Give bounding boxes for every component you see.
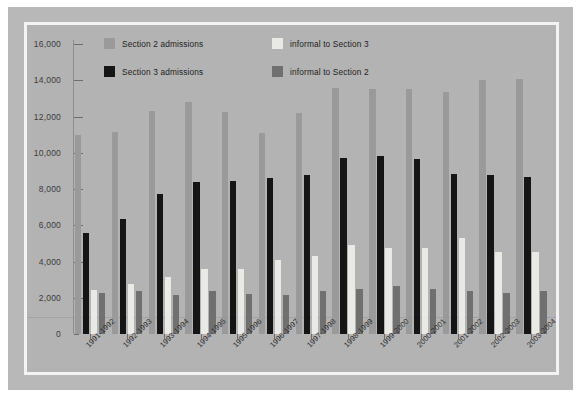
bar-informal-to-section-3 (312, 256, 318, 334)
bar-section-2-admissions (259, 133, 265, 334)
bar-section-3-admissions (377, 156, 383, 334)
bar-section-3-admissions (120, 219, 126, 334)
bar-section-3-admissions (157, 194, 163, 334)
bar-informal-to-section-3 (495, 252, 501, 334)
bar-section-2-admissions (479, 80, 485, 334)
bar-section-3-admissions (83, 233, 89, 334)
bar-section-2-admissions (112, 132, 118, 334)
bar-section-2-admissions (369, 89, 375, 334)
bar-informal-to-section-3 (532, 252, 538, 334)
legend-label-section-3-admissions: Section 3 admissions (122, 67, 203, 77)
bar-section-2-admissions (222, 112, 228, 334)
bar-informal-to-section-3 (422, 248, 428, 334)
legend-item-section-2-admissions: Section 2 admissions (104, 38, 203, 49)
bar-group (479, 0, 516, 334)
bar-section-2-admissions (406, 89, 412, 334)
bar-section-2-admissions (296, 113, 302, 334)
bar-section-3-admissions (304, 175, 310, 334)
bar-section-2-admissions (75, 135, 81, 334)
legend-swatch-section-3-admissions (104, 66, 115, 77)
bar-informal-to-section-3 (459, 238, 465, 334)
chart-legend: Section 2 admissions informal to Section… (104, 38, 394, 80)
bar-section-3-admissions (340, 158, 346, 334)
bar-section-2-admissions (185, 102, 191, 334)
bar-informal-to-section-3 (275, 260, 281, 334)
legend-label-informal-to-section-3: informal to Section 3 (290, 39, 369, 49)
bar-section-3-admissions (487, 175, 493, 335)
bar-informal-to-section-3 (165, 277, 171, 334)
legend-item-informal-to-section-2: informal to Section 2 (272, 66, 369, 77)
bar-section-3-admissions (524, 177, 530, 334)
bar-informal-to-section-3 (201, 269, 207, 334)
legend-item-section-3-admissions: Section 3 admissions (104, 66, 203, 77)
bar-informal-to-section-3 (91, 290, 97, 334)
bar-group (406, 0, 443, 334)
bar-informal-to-section-3 (128, 284, 134, 334)
legend-swatch-informal-to-section-2 (272, 66, 283, 77)
bar-group (443, 0, 480, 334)
bar-section-3-admissions (267, 178, 273, 334)
bar-informal-to-section-3 (385, 248, 391, 334)
bar-section-3-admissions (414, 159, 420, 334)
bar-section-2-admissions (149, 111, 155, 334)
chart-figure: 02,0004,0006,0008,00010,00012,00014,0001… (0, 0, 587, 417)
legend-swatch-informal-to-section-3 (272, 38, 283, 49)
legend-label-section-2-admissions: Section 2 admissions (122, 39, 203, 49)
bar-informal-to-section-3 (348, 245, 354, 334)
bar-section-2-admissions (332, 88, 338, 335)
legend-item-informal-to-section-3: informal to Section 3 (272, 38, 369, 49)
bar-group (516, 0, 553, 334)
legend-swatch-section-2-admissions (104, 38, 115, 49)
bar-section-2-admissions (443, 92, 449, 334)
bar-section-3-admissions (230, 181, 236, 334)
bar-informal-to-section-3 (238, 269, 244, 334)
bar-section-3-admissions (193, 182, 199, 334)
bar-section-2-admissions (516, 79, 522, 334)
legend-label-informal-to-section-2: informal to Section 2 (290, 67, 369, 77)
bar-section-3-admissions (451, 174, 457, 334)
